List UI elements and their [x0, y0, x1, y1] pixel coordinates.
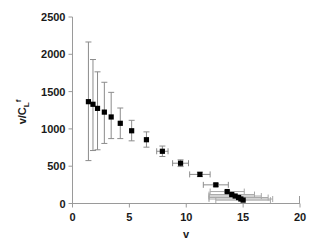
data-point-marker	[118, 121, 123, 126]
y-axis-title-subscript: L	[22, 102, 31, 107]
y-tick-label: 1500	[41, 86, 65, 98]
data-point-marker	[90, 102, 95, 107]
x-tick-label: 0	[69, 211, 75, 223]
data-point-marker	[86, 99, 91, 104]
x-axis-title: v	[183, 228, 190, 240]
y-tick-label: 0	[59, 198, 65, 210]
data-point-marker	[95, 106, 100, 111]
y-axis-title-prefix: v/C	[16, 107, 28, 124]
data-point-marker	[213, 182, 218, 187]
data-point-marker	[102, 110, 107, 115]
data-point-marker	[129, 128, 134, 133]
x-tick-label: 5	[126, 211, 132, 223]
y-tick-label: 500	[47, 160, 65, 172]
chart-figure: 05001000150020002500 05101520 v v/CLf	[0, 0, 331, 243]
data-point-marker	[225, 189, 230, 194]
y-tick-label: 2500	[41, 11, 65, 23]
scatter-plot: 05001000150020002500 05101520 v v/CLf	[0, 0, 331, 243]
data-point-marker	[160, 149, 165, 154]
x-tick-label: 20	[294, 211, 306, 223]
chart-background	[0, 0, 331, 243]
data-point-marker	[241, 198, 246, 203]
y-axis-title-superscript: f	[14, 99, 23, 102]
y-tick-label: 2000	[41, 48, 65, 60]
y-tick-label: 1000	[41, 123, 65, 135]
data-point-marker	[197, 172, 202, 177]
x-tick-label: 15	[237, 211, 249, 223]
data-point-marker	[178, 161, 183, 166]
x-tick-label: 10	[180, 211, 192, 223]
data-point-marker	[144, 137, 149, 142]
data-point-marker	[109, 114, 114, 119]
